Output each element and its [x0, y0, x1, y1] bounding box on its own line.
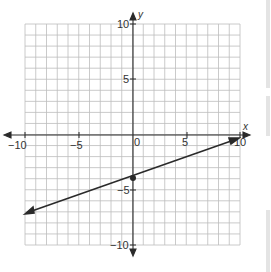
y-tick-label: 10: [117, 18, 129, 30]
arrowhead-left-icon: [25, 207, 34, 214]
x-tick-label: −10: [8, 139, 27, 151]
x-tick-label: 0: [134, 136, 140, 148]
y-tick-label: −5: [117, 184, 130, 196]
x-tick-label: 5: [182, 136, 188, 148]
coordinate-plane: −10 −5 0 5 10 10 5 −5 −10 y x: [0, 0, 271, 272]
page-edge-decoration: [266, 96, 270, 136]
page-edge-decoration: [266, 0, 270, 88]
page-edge-decoration: [266, 210, 270, 272]
y-tick-label: −10: [110, 239, 129, 251]
y-intercept-point: [131, 176, 135, 180]
y-tick-label: 5: [123, 73, 129, 85]
y-axis-label: y: [137, 9, 144, 20]
x-axis-label: x: [242, 121, 249, 132]
x-tick-label: −5: [70, 139, 83, 151]
x-axis: [4, 132, 250, 138]
